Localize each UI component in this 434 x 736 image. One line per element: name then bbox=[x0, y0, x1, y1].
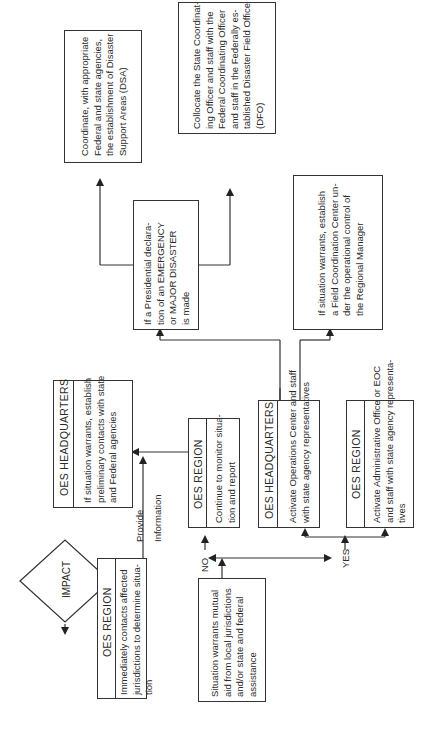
node-text: Collocate the State Coordinat- ing Offic… bbox=[191, 2, 266, 129]
node-text: Immediately contacts affected jurisdicti… bbox=[118, 564, 156, 695]
node-text: If situation warrants, establish prelimi… bbox=[82, 376, 120, 503]
node-text: Situation warrants mutual aid from local… bbox=[209, 588, 259, 697]
node-text: Continue to monitor situa- tion and repo… bbox=[213, 414, 238, 523]
edge-label-no: NO bbox=[199, 558, 210, 572]
edge-label-information: Information bbox=[152, 494, 163, 542]
node-dfo: Collocate the State Coordinat- ing Offic… bbox=[178, 2, 276, 134]
impact-label: IMPACT bbox=[61, 561, 72, 598]
node-presidential-declaration: If a Presidential declara- tion of an EM… bbox=[133, 200, 199, 330]
node-header-text: OES REGION bbox=[101, 587, 113, 657]
node-dsa: Coordinate, with appropriate Federal and… bbox=[64, 30, 142, 163]
node-text: Activate Operations Center and staff wit… bbox=[287, 370, 312, 523]
node-oes-region-activate: OES REGION Activate Administrative Offic… bbox=[346, 400, 414, 528]
node-text: If situation warrants, establish a Field… bbox=[316, 183, 366, 316]
node-oes-region-immediate: OES REGION Immediately contacts affected… bbox=[97, 558, 147, 699]
node-situation-warrants: Situation warrants mutual aid from local… bbox=[198, 578, 266, 702]
node-oes-region-monitor: OES REGION Continue to monitor situa- ti… bbox=[188, 418, 240, 528]
node-header-text: OES REGION bbox=[350, 429, 362, 499]
node-oes-hq-activate: OES HEADQUARTERS Activate Operations Cen… bbox=[258, 400, 320, 528]
node-text: Activate Administrative Office or EOC an… bbox=[371, 359, 409, 523]
edge-label-yes: YES bbox=[340, 549, 351, 568]
node-header-text: OES HEADQUARTERS bbox=[263, 402, 275, 519]
node-field-coordination: If situation warrants, establish a Field… bbox=[293, 175, 383, 330]
node-text: Coordinate, with appropriate Federal and… bbox=[79, 33, 129, 156]
node-header-text: OES REGION bbox=[192, 439, 204, 509]
node-text: If a Presidential declara- tion of an EM… bbox=[142, 222, 192, 325]
edge-label-provide: Provide bbox=[134, 510, 145, 542]
node-oes-hq-preliminary: OES HEADQUARTERS If situation warrants, … bbox=[53, 380, 133, 508]
node-header-text: OES HEADQUARTERS bbox=[58, 379, 70, 496]
